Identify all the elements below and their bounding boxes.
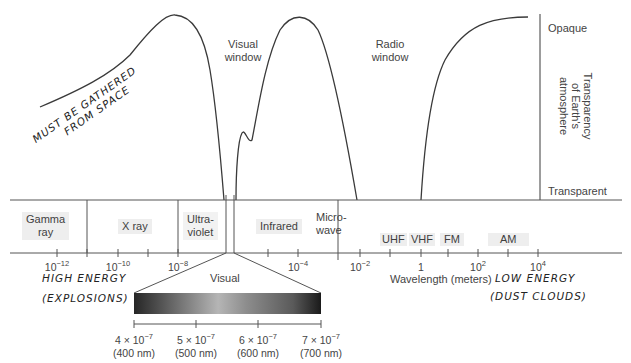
- y-axis-label: Transparency of Earth's atmosphere: [558, 66, 594, 146]
- visual-inset-title: Visual: [210, 272, 240, 285]
- transparent-label: Transparent: [548, 185, 607, 198]
- tick-label: 10−12: [45, 259, 69, 273]
- visual-spectrum-bar: [134, 293, 321, 314]
- inset-tick-label: 6 × 10−7 (600 nm): [237, 330, 279, 360]
- visual-window-label: Visual window: [218, 38, 268, 64]
- tick-label: 10−4: [288, 259, 308, 273]
- inset-tick-label: 7 × 10−7 (700 nm): [300, 330, 342, 360]
- band-infrared: Infrared: [256, 219, 302, 234]
- tick-label: 1: [418, 259, 424, 273]
- wavelength-axis-label: Wavelength (meters): [390, 273, 492, 286]
- tick-label: 10−10: [106, 259, 130, 273]
- inset-tick-label: 4 × 10−7 (400 nm): [113, 330, 155, 360]
- spectrum-diagram: [0, 0, 631, 363]
- handwritten-low-energy: LOW ENERGY (DUST CLOUDS): [495, 272, 587, 302]
- tick-label: 10−8: [168, 259, 188, 273]
- tick-label: 104: [530, 259, 546, 273]
- opaque-label: Opaque: [548, 22, 587, 35]
- band-vhf: VHF: [409, 233, 435, 246]
- transparency-curve-right: [421, 17, 528, 200]
- tick-label: 10−2: [350, 259, 370, 273]
- band-x-ray: X ray: [118, 219, 152, 234]
- handwritten-high-energy: HIGH ENERGY (EXPLOSIONS): [42, 272, 129, 304]
- band-microwave: Micro- wave: [312, 210, 351, 238]
- radio-window-label: Radio window: [360, 38, 420, 64]
- band-uhf: UHF: [380, 233, 407, 246]
- inset-tick-label: 5 × 10−7 (500 nm): [175, 330, 217, 360]
- band-gamma-ray: Gamma ray: [22, 212, 69, 240]
- tick-label: 102: [470, 259, 486, 273]
- band-am: AM: [488, 233, 529, 246]
- band-ultraviolet: Ultra- violet: [183, 212, 218, 240]
- band-fm: FM: [440, 233, 464, 246]
